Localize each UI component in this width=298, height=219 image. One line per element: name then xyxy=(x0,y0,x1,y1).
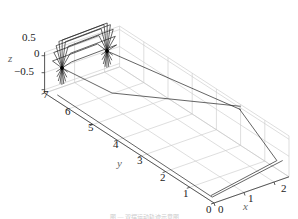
pivot-point-1 xyxy=(105,49,109,53)
x-axis-label: x xyxy=(243,201,248,212)
y-tick-7: 0 xyxy=(206,204,212,215)
z-tick-2: −0.5 xyxy=(14,66,34,77)
y-tick-4: 3 xyxy=(137,155,143,166)
y-tick-0: 7 xyxy=(43,89,49,100)
figure-caption: 图 — 双摆运动轨迹示意图 xyxy=(110,212,179,219)
pivot-points xyxy=(60,49,109,70)
y-axis-label: y xyxy=(117,158,122,169)
y-tick-1: 6 xyxy=(65,106,71,117)
z-tick-1: 0 xyxy=(34,48,40,59)
y-tick-2: 5 xyxy=(88,122,94,133)
y-tick-3: 4 xyxy=(113,139,119,150)
x-tick-2: 2 xyxy=(281,183,287,194)
pivot-point-0 xyxy=(60,66,64,70)
y-tick-6: 1 xyxy=(183,188,189,199)
plot-canvas xyxy=(0,0,298,219)
z-tick-0: 0.5 xyxy=(22,32,36,43)
x-tick-1: 1 xyxy=(248,193,254,204)
x-tick-0: 0 xyxy=(218,204,224,215)
z-axis-label: z xyxy=(8,53,12,64)
y-tick-5: 2 xyxy=(160,172,166,183)
